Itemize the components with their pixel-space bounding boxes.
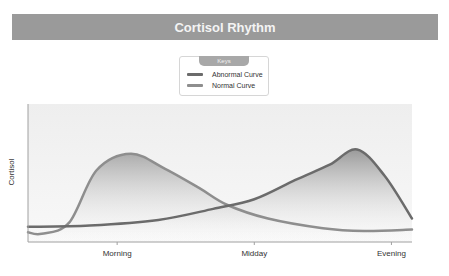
x-tick-label-morning: Morning: [103, 249, 132, 258]
x-tick-label-midday: Midday: [241, 249, 267, 258]
y-axis-label: Cortisol: [7, 158, 16, 185]
chart-plot: MorningMiddayEvening Cortisol: [0, 0, 449, 276]
x-tick-label-evening: Evening: [377, 249, 406, 258]
